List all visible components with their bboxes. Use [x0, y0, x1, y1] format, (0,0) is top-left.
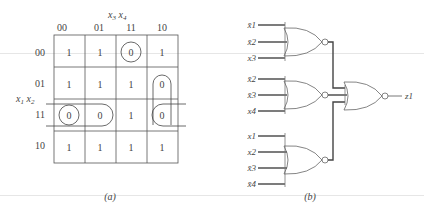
input-label: x̄1	[247, 20, 257, 30]
col-var-label: x3 x4	[107, 9, 127, 22]
input-label: x4	[247, 106, 257, 116]
input-label: x̄2	[247, 37, 257, 47]
caption-b: (b)	[304, 191, 316, 203]
input-label: x̄4	[247, 179, 257, 189]
group-horizontal-loop-wrap	[152, 104, 186, 126]
caption-a: (a)	[104, 191, 116, 203]
cell: 0	[67, 110, 72, 121]
input-label: x̄2	[247, 74, 257, 84]
input-label: x3	[247, 53, 257, 63]
cell: 1	[67, 47, 72, 58]
nor-gate-3	[284, 146, 328, 174]
col-header: 11	[126, 22, 136, 33]
cell: 1	[67, 79, 72, 90]
row-var-label: x1 x2	[15, 93, 35, 106]
col-header: 01	[94, 22, 104, 33]
cell: 0	[129, 47, 134, 58]
col-header: 10	[157, 22, 167, 33]
cell: 1	[129, 142, 134, 153]
nor-circuit-panel: x̄1 x̄2 x3 x̄2 x̄3 x4 x1 x2 x̄3 x̄4	[212, 0, 424, 217]
input-label: x1	[247, 131, 257, 141]
input-wires	[258, 25, 287, 184]
logic-circuit: x̄1 x̄2 x3 x̄2 x̄3 x4 x1 x2 x̄3 x̄4	[212, 0, 424, 217]
cell: 1	[160, 47, 165, 58]
nor-gate-2	[284, 81, 328, 109]
row-header: 11	[35, 109, 45, 120]
cell: 1	[98, 47, 103, 58]
group-horizontal-loop	[46, 104, 113, 126]
input-label: x̄3	[247, 90, 257, 100]
cell: 1	[98, 142, 103, 153]
cell: 0	[160, 110, 165, 121]
output-label: z1	[404, 91, 413, 101]
cell: 1	[129, 79, 134, 90]
input-label: x̄3	[247, 163, 257, 173]
row-header: 01	[35, 78, 45, 89]
cell: 1	[129, 110, 134, 121]
nor-gate-1	[284, 28, 328, 56]
nor-gate-final	[344, 82, 388, 110]
col-header: 00	[57, 22, 67, 33]
cell: 0	[98, 110, 103, 121]
cell: 0	[160, 79, 165, 90]
kmap-cells: 1 1 0 1 1 1 1 0 0 0 1 0 1 1 1 1	[67, 47, 165, 153]
row-header: 10	[35, 140, 45, 151]
karnaugh-map-panel: x3 x4 00 01 11 10 00 01 11 10 x1 x2 1 1 …	[0, 0, 212, 217]
cell: 1	[98, 79, 103, 90]
cell: 1	[160, 142, 165, 153]
inter-gate-wires	[328, 42, 347, 160]
input-label: x2	[247, 147, 257, 157]
cell: 1	[67, 142, 72, 153]
input-labels: x̄1 x̄2 x3 x̄2 x̄3 x4 x1 x2 x̄3 x̄4	[247, 20, 257, 189]
row-header: 00	[35, 47, 45, 58]
karnaugh-map: x3 x4 00 01 11 10 00 01 11 10 x1 x2 1 1 …	[0, 0, 212, 217]
